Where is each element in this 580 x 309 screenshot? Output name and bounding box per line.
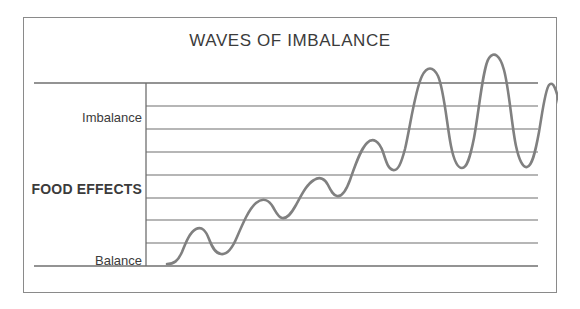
gridlines: [146, 106, 538, 243]
figure-root: WAVES OF IMBALANCE Imbalance FOOD EFFECT…: [0, 0, 580, 309]
chart-frame: WAVES OF IMBALANCE Imbalance FOOD EFFECT…: [23, 17, 557, 293]
plot-area: [24, 18, 558, 294]
wave-curve: [167, 55, 558, 264]
